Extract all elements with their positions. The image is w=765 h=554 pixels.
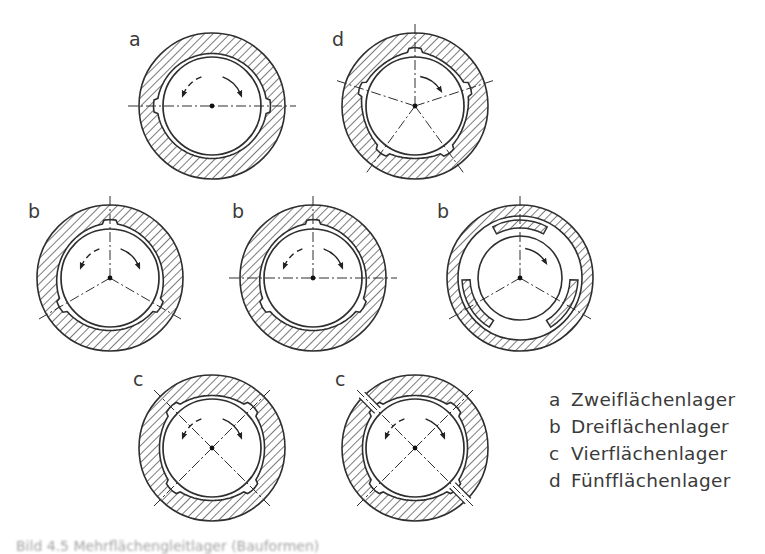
legend-text: Vierflächenlager	[571, 443, 727, 464]
legend-item-c: c Vierflächenlager	[549, 443, 735, 470]
bearing-b-left: b	[28, 193, 184, 351]
rotation-arrow-right	[420, 76, 440, 90]
bearing-label: b	[232, 200, 244, 222]
legend-item-a: a Zweiflächenlager	[549, 389, 735, 416]
bearing-label: d	[332, 28, 344, 50]
bearing-label: c	[133, 368, 143, 390]
legend-key: c	[549, 443, 571, 464]
center-point	[210, 446, 215, 451]
center-point	[518, 276, 523, 281]
legend: a Zweiflächenlager b Dreiflächenlager c …	[549, 389, 735, 497]
center-point	[413, 446, 418, 451]
rotation-arrow-right	[525, 248, 545, 262]
center-point	[210, 104, 215, 109]
center-point	[413, 104, 418, 109]
legend-item-d: d Fünfflächenlager	[549, 470, 735, 497]
center-point	[108, 276, 113, 281]
rotation-arrow-left	[284, 249, 302, 267]
rotation-arrow-right	[121, 249, 139, 267]
figure-caption: Bild 4.5 Mehrflächengleitlager (Bauforme…	[16, 538, 319, 554]
bearing-a-top: a	[128, 28, 296, 179]
rotation-arrow-right	[324, 249, 342, 267]
bearing-d-top: d	[332, 21, 496, 179]
legend-key: d	[549, 470, 571, 491]
bearing-c-left: c	[133, 368, 285, 521]
center-point	[311, 276, 316, 281]
rotation-arrow-right	[223, 77, 241, 95]
bearing-b-middle: b	[229, 193, 397, 351]
bearing-label: b	[28, 200, 40, 222]
bearing-b-right: b	[437, 193, 594, 351]
legend-key: b	[549, 416, 571, 437]
legend-text: Dreiflächenlager	[571, 416, 729, 437]
rotation-arrow-left	[183, 77, 201, 95]
bearing-label: b	[437, 200, 449, 222]
rotation-arrow-left	[81, 249, 99, 267]
legend-text: Fünfflächenlager	[571, 470, 731, 491]
legend-item-b: b Dreiflächenlager	[549, 416, 735, 443]
legend-key: a	[549, 389, 571, 410]
bearing-label: a	[129, 28, 141, 50]
legend-text: Zweiflächenlager	[571, 389, 735, 410]
bearing-label: c	[335, 368, 345, 390]
bearing-c-right: c	[335, 368, 488, 521]
